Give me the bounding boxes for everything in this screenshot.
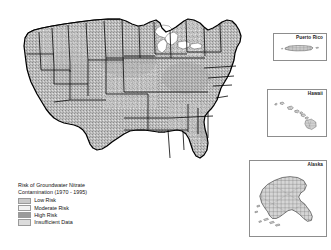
legend-swatch-low-risk	[18, 198, 31, 204]
legend-items: Low Risk Moderate Risk High Risk Insuffi…	[18, 197, 138, 226]
legend-item-high-risk[interactable]: High Risk	[18, 212, 138, 219]
legend-title-line1: Risk of Groundwater Nitrate	[18, 182, 138, 189]
inset-label-hawaii: Hawaii	[308, 91, 323, 97]
legend-swatch-insufficient-data	[18, 219, 31, 225]
inset-alaska[interactable]: Alaska	[249, 160, 327, 237]
legend-item-insufficient-data[interactable]: Insufficient Data	[18, 219, 138, 226]
legend-item-moderate-risk[interactable]: Moderate Risk	[18, 205, 138, 212]
legend: Risk of Groundwater Nitrate Contaminatio…	[18, 182, 138, 226]
map-figure: Puerto Rico Hawaii	[0, 0, 331, 250]
legend-label-moderate-risk: Moderate Risk	[34, 205, 69, 212]
inset-hawaii[interactable]: Hawaii	[267, 89, 327, 137]
contiguous-us-map[interactable]	[8, 8, 256, 180]
inset-label-puerto-rico: Puerto Rico	[296, 35, 323, 41]
legend-swatch-high-risk	[18, 212, 31, 218]
legend-swatch-moderate-risk	[18, 205, 31, 211]
legend-item-low-risk[interactable]: Low Risk	[18, 197, 138, 204]
legend-label-low-risk: Low Risk	[34, 197, 56, 204]
inset-label-alaska: Alaska	[308, 162, 323, 168]
alaska-fill	[250, 161, 326, 236]
legend-title-line2: Contamination (1970 - 1995)	[18, 189, 138, 196]
legend-label-insufficient-data: Insufficient Data	[34, 219, 73, 226]
hawaii-islands	[275, 102, 316, 129]
inset-puerto-rico[interactable]: Puerto Rico	[273, 33, 327, 61]
puerto-rico-shape	[281, 46, 318, 51]
legend-label-high-risk: High Risk	[34, 212, 57, 219]
